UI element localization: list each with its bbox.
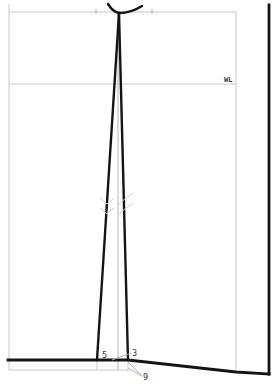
point-label-3: 3	[132, 349, 137, 358]
right-notch-upper	[119, 193, 133, 204]
dart-right-leg	[119, 13, 128, 360]
point-label-9: 9	[143, 373, 148, 382]
point-label-5: 5	[102, 351, 107, 360]
dart-notches	[100, 193, 133, 214]
waist-line-label: WL	[224, 76, 232, 84]
right-notch-lower	[119, 203, 133, 214]
dart-left-leg	[97, 13, 119, 360]
pattern-diagram: WL 5 3 9	[0, 0, 274, 387]
